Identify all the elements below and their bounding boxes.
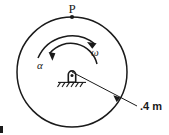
edge-artifact-mark (0, 126, 3, 133)
curved-arrow-counterclockwise-head (49, 52, 56, 61)
radius-dimension-label: .4 m (140, 100, 162, 112)
curved-arrow-counterclockwise-icon (50, 43, 97, 64)
rotating-disk-figure: P ω α .4 m (0, 0, 169, 135)
ground-hatching-icon (58, 82, 84, 87)
point-p-label: P (68, 1, 75, 16)
figure-canvas: P ω α .4 m (0, 0, 169, 135)
pivot-center-dot (71, 74, 74, 77)
curved-arrow-clockwise-icon (38, 36, 95, 58)
omega-label: ω (91, 46, 99, 58)
alpha-label: α (37, 59, 43, 71)
